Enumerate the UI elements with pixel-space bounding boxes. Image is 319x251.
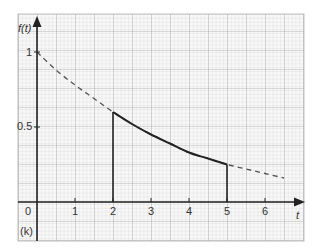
y-tick-1: 1 <box>26 47 32 58</box>
x-tick-label: 6 <box>262 206 268 217</box>
x-tick-label: 1 <box>72 206 78 217</box>
y-axis-label: f(t) <box>18 23 31 34</box>
panel-label: (k) <box>20 226 33 237</box>
chart-canvas <box>0 0 319 251</box>
x-tick-label: 2 <box>110 206 116 217</box>
x-tick-label: 3 <box>148 206 154 217</box>
x-tick-label: 5 <box>224 206 230 217</box>
x-axis-label: t <box>296 210 299 221</box>
x-tick-label: 4 <box>186 206 192 217</box>
x-tick-label: 0 <box>25 206 31 217</box>
y-tick-0-5: 0.5 <box>17 121 32 132</box>
